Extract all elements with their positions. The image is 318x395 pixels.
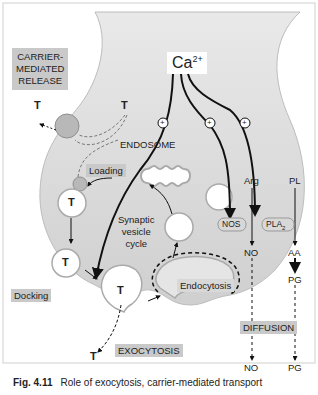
figure-caption-text: Role of exocytosis, carrier-mediated tra… [60,377,262,388]
transmitter-in-vesicle: T [68,196,75,208]
plus-icon-2: + [207,118,212,127]
transmitter-reuptake: T [121,99,128,111]
carrier-release-arrow [40,124,56,130]
carrier-protein [55,114,79,138]
transmitter-exocytosis-vesicle: T [117,284,124,296]
plus-icon-3: + [242,118,247,127]
exocytosis-label: EXOCYTOSIS [115,344,183,357]
pg-inside-label: PG [288,274,302,285]
figure-number: Fig. 4.11 [13,377,52,388]
synaptic-vesicle-cycle-label: Synaptic vesicle cycle [118,214,154,250]
phospholipid-label: PL [289,175,301,186]
arginine-label: Arg [244,175,259,186]
vesicle-recycled [206,184,232,210]
pla2-label: PLA2 [266,219,285,231]
nos-label: NOS [222,219,240,229]
no-inside-label: NO [244,247,258,258]
loading-label: Loading [86,164,126,177]
plus-icon-1: + [160,118,165,127]
transmitter-released: T [90,350,97,362]
endosome [141,166,190,186]
calcium-label: Ca2+ [172,54,203,72]
endosome-label: ENDOSOME [120,139,175,150]
transmitter-docking-vesicle: T [62,256,69,268]
synaptic-diagram: Ca2+ CARRIER- MEDIATED RELEASE T T Loadi… [0,0,318,395]
transmitter-carrier-out: T [34,99,41,111]
diffusion-label: DIFFUSION [240,321,297,334]
no-outside-label: NO [244,362,258,373]
docking-label: Docking [11,289,51,302]
figure-caption: Fig. 4.11Role of exocytosis, carrier-med… [13,377,262,388]
to-endocytosis-arrow [148,296,160,301]
aa-label: AA [288,247,301,258]
endocytosis-label: Endocytosis [177,279,234,292]
carrier-mediated-release-label: CARRIER- MEDIATED RELEASE [12,48,68,90]
vesicle-endocytosis-small [165,213,193,241]
pg-outside-label: PG [288,362,302,373]
